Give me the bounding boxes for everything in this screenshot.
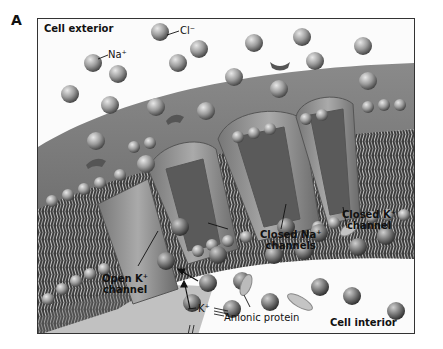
membrane-diagram-frame: Cell exterior Cl⁻ Na⁺ Closed Na⁺ channel… bbox=[37, 18, 415, 334]
panel-letter: A bbox=[11, 12, 22, 28]
label-closed-na-channels: Closed Na⁺ channels bbox=[260, 229, 321, 251]
label-na-ion: Na⁺ bbox=[108, 49, 127, 60]
label-anionic-protein: Anionic protein bbox=[224, 312, 299, 323]
label-cell-interior: Cell interior bbox=[330, 317, 397, 328]
label-cell-exterior: Cell exterior bbox=[44, 23, 113, 34]
label-k-ion: K⁺ bbox=[198, 303, 210, 314]
label-cl-ion: Cl⁻ bbox=[180, 25, 195, 36]
label-open-k-channel: Open K⁺ channel bbox=[102, 273, 148, 295]
membrane-illustration bbox=[38, 19, 415, 334]
label-closed-k-channel: Closed K⁺ channel bbox=[342, 209, 396, 231]
